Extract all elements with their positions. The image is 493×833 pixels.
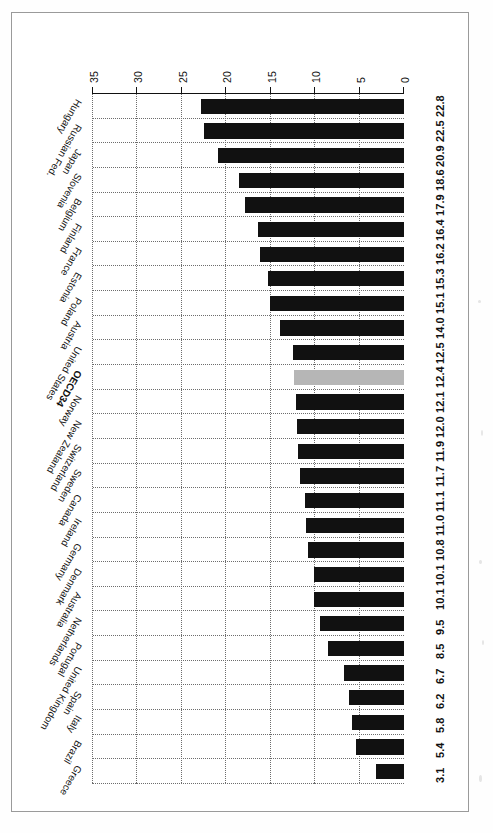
bar[interactable] (300, 468, 404, 483)
bar-value-label: 3.1 (434, 767, 446, 783)
bar-row (93, 493, 404, 508)
bar[interactable] (201, 99, 404, 114)
bar[interactable] (297, 419, 404, 434)
gridline-horizontal (93, 192, 404, 193)
gridline-horizontal (93, 339, 404, 340)
bar-row (93, 468, 404, 483)
bar-value-label: 17.9 (434, 194, 446, 216)
bar-value-label: 11.0 (434, 515, 446, 536)
category-label: Italy (65, 714, 84, 736)
bar-value-label: 16.2 (434, 243, 446, 265)
bar-value-label: 22.5 (434, 120, 446, 142)
bar[interactable] (298, 444, 404, 459)
scan-artifact (482, 640, 484, 645)
bar[interactable] (204, 123, 404, 138)
scan-artifact (478, 300, 481, 303)
bar[interactable] (308, 542, 404, 557)
bar-row (93, 592, 404, 607)
x-axis-tick-label: 20 (221, 71, 233, 83)
bar-value-label: 9.5 (434, 619, 446, 635)
gridline-horizontal (93, 635, 404, 636)
gridline-horizontal (93, 586, 404, 587)
bar[interactable] (293, 345, 404, 360)
bar[interactable] (349, 690, 404, 705)
bar[interactable] (352, 715, 404, 730)
x-axis-tick-label: 25 (177, 71, 189, 83)
gridline-horizontal (93, 463, 404, 464)
gridline-horizontal (93, 660, 404, 661)
bar-value-label: 15.1 (434, 293, 446, 315)
bar-row (93, 320, 404, 335)
bar-value-label: 11.9 (434, 441, 446, 462)
x-axis-tick (359, 87, 360, 94)
bar[interactable] (239, 173, 404, 188)
bar-row (93, 715, 404, 730)
bar-value-label: 12.1 (434, 391, 446, 413)
bar-row (93, 345, 404, 360)
bar-row (93, 616, 404, 631)
bar[interactable] (344, 665, 404, 680)
bar-row (93, 419, 404, 434)
gridline-horizontal (93, 611, 404, 612)
bar[interactable] (328, 641, 404, 656)
gridline-horizontal (93, 241, 404, 242)
bar[interactable] (294, 370, 404, 385)
bar[interactable] (260, 247, 404, 262)
x-axis-tick-label: 30 (132, 71, 144, 83)
bar-value-label: 12.5 (434, 342, 446, 364)
bar-value-label: 6.2 (434, 693, 446, 709)
bar[interactable] (314, 592, 404, 607)
x-axis-tick (314, 87, 315, 94)
gridline-horizontal (93, 734, 404, 735)
bar[interactable] (270, 296, 404, 311)
x-axis-tick (92, 87, 93, 94)
gridline-horizontal (93, 315, 404, 316)
x-axis-line (92, 93, 404, 94)
bar[interactable] (245, 197, 404, 212)
gridline-horizontal (93, 266, 404, 267)
gridline-horizontal (93, 709, 404, 710)
gridline-horizontal (93, 487, 404, 488)
bar-row (93, 739, 404, 754)
bar-row (93, 542, 404, 557)
scan-artifact (481, 430, 483, 436)
bar[interactable] (305, 493, 404, 508)
bar[interactable] (218, 148, 404, 163)
bar-row (93, 197, 404, 212)
gridline-horizontal (93, 142, 404, 143)
bar-value-label: 8.5 (434, 644, 446, 660)
gridline-horizontal (93, 413, 404, 414)
x-axis-tick (225, 87, 226, 94)
category-label: Brazil (62, 739, 84, 766)
bar[interactable] (296, 394, 404, 409)
scan-artifact (479, 560, 482, 564)
bar[interactable] (258, 222, 404, 237)
x-axis-tick (270, 87, 271, 94)
bar-row (93, 444, 404, 459)
gridline-horizontal (93, 512, 404, 513)
bar-row (93, 173, 404, 188)
bar-row (93, 247, 404, 262)
bar[interactable] (280, 320, 404, 335)
bar-row (93, 665, 404, 680)
bar[interactable] (306, 518, 404, 533)
bar-row (93, 690, 404, 705)
bar-row (93, 394, 404, 409)
bar[interactable] (356, 739, 404, 754)
bar-row (93, 123, 404, 138)
x-axis-tick (403, 87, 404, 94)
x-axis-tick-label: 10 (310, 71, 322, 83)
bar-row (93, 518, 404, 533)
bar-value-label: 15.3 (434, 268, 446, 290)
bar-value-label: 6.7 (434, 669, 446, 685)
plot-area (93, 94, 404, 784)
rotated-chart-wrapper: 051015202530353.1Greece5.4Brazil5.8Italy… (11, 12, 469, 812)
bar[interactable] (320, 616, 404, 631)
bar[interactable] (268, 271, 404, 286)
bar[interactable] (376, 764, 404, 779)
bar[interactable] (314, 567, 404, 582)
bar-row (93, 370, 404, 385)
x-axis-tick-label: 15 (266, 71, 278, 83)
gridline-horizontal (93, 783, 404, 784)
bar-value-label: 10.8 (434, 539, 446, 561)
